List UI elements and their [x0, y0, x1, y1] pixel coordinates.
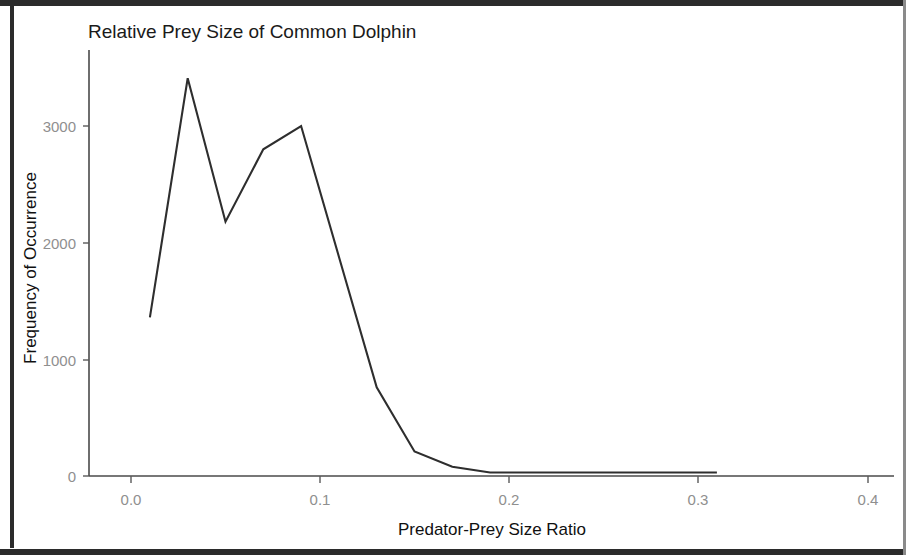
x-tick-label-4: 0.4 [858, 491, 879, 508]
y-tick-label-2000: 2000 [43, 235, 76, 252]
y-axis-title: Frequency of Occurrence [21, 172, 40, 364]
x-tick-label-1: 0.1 [310, 491, 331, 508]
y-axis-ticks: 3000 2000 1000 0 [43, 118, 89, 485]
x-axis-title: Predator-Prey Size Ratio [398, 520, 586, 539]
y-tick-label-1000: 1000 [43, 352, 76, 369]
x-tick-label-3: 0.3 [688, 491, 709, 508]
x-axis-ticks: 0.0 0.1 0.2 0.3 0.4 [121, 476, 879, 508]
chart-page: Relative Prey Size of Common Dolphin 300… [0, 0, 906, 555]
x-tick-label-2: 0.2 [499, 491, 520, 508]
data-series-line [150, 78, 717, 472]
line-chart: Relative Prey Size of Common Dolphin 300… [0, 0, 906, 555]
x-tick-label-0: 0.0 [121, 491, 142, 508]
y-tick-label-0: 0 [68, 468, 76, 485]
y-tick-label-3000: 3000 [43, 118, 76, 135]
chart-title: Relative Prey Size of Common Dolphin [88, 21, 416, 42]
